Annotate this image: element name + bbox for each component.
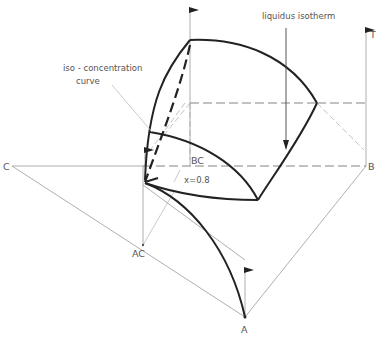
edge-a-to-b bbox=[245, 166, 366, 317]
right-liquidus-curve bbox=[258, 103, 317, 200]
label-liquidus-isotherm: liquidus isotherm bbox=[262, 11, 335, 21]
left-liquidus-curve bbox=[145, 40, 190, 180]
a-point-icon bbox=[244, 316, 247, 319]
dashed-guides bbox=[143, 103, 366, 166]
label-temperature-axis: T bbox=[369, 29, 376, 40]
dashed-liquidus-curve bbox=[145, 45, 190, 182]
label-iso-concentration-1: iso - concentration bbox=[63, 63, 142, 73]
a-liquidus-curve bbox=[145, 183, 245, 317]
label-vertex-a: A bbox=[241, 324, 248, 335]
liquidus-arrowhead-icon bbox=[283, 140, 289, 150]
dashed-projection-b bbox=[317, 103, 364, 150]
edge-c-to-a bbox=[12, 166, 245, 317]
label-concentration-value: x=0.8 bbox=[184, 175, 210, 185]
label-vertex-c: C bbox=[3, 161, 10, 172]
iso-concentration-leader bbox=[112, 85, 152, 132]
liquidus-surface bbox=[145, 40, 317, 317]
ternary-phase-diagram: C B A AC BC T iso - concentration curve … bbox=[0, 0, 379, 338]
label-iso-concentration-2: curve bbox=[76, 76, 100, 86]
x-value-leader bbox=[174, 170, 180, 182]
ac-projection bbox=[143, 190, 175, 245]
label-edge-bc: BC bbox=[191, 155, 204, 166]
ac-point-icon bbox=[142, 244, 144, 246]
label-vertex-b: B bbox=[368, 161, 375, 172]
label-edge-ac: AC bbox=[132, 248, 145, 259]
base-triangle bbox=[12, 166, 366, 317]
top-liquidus-curve bbox=[190, 40, 317, 103]
iso-projection-line bbox=[143, 185, 245, 260]
